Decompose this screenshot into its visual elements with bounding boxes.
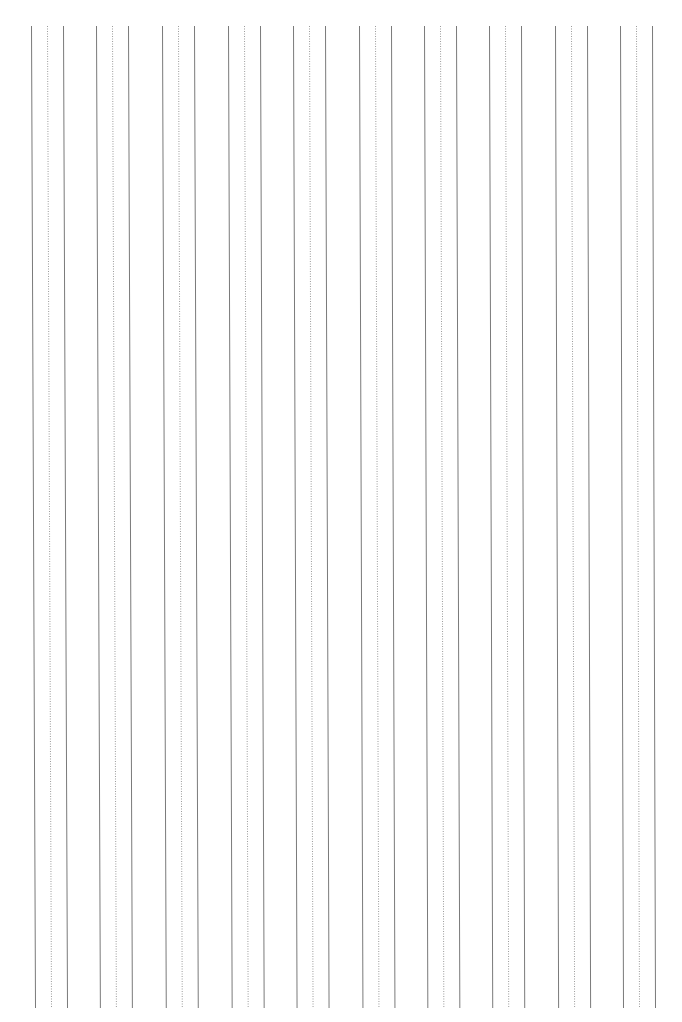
line-groups <box>0 0 682 1022</box>
dotted-midline <box>441 26 444 1008</box>
solid-line-right <box>326 26 330 1008</box>
solid-line-left <box>621 26 624 1008</box>
line-group <box>490 26 525 1008</box>
solid-line-right <box>261 26 265 1008</box>
solid-line-right <box>457 26 460 1008</box>
dotted-midline <box>48 26 52 1008</box>
solid-line-left <box>556 26 559 1008</box>
solid-line-left <box>163 26 167 1008</box>
solid-line-left <box>294 26 298 1008</box>
line-group <box>360 26 395 1008</box>
line-group <box>97 26 133 1008</box>
solid-line-left <box>97 26 101 1008</box>
dotted-midline <box>637 26 640 1008</box>
line-group <box>556 26 591 1008</box>
solid-line-left <box>425 26 428 1008</box>
dotted-midline <box>179 26 183 1008</box>
solid-line-left <box>229 26 233 1008</box>
solid-line-left <box>360 26 363 1008</box>
dotted-midline <box>506 26 509 1008</box>
lined-sheet <box>0 0 682 1022</box>
dotted-midline <box>572 26 575 1008</box>
dotted-midline <box>113 26 117 1008</box>
solid-line-right <box>129 26 133 1008</box>
line-group <box>32 26 68 1008</box>
solid-line-right <box>588 26 591 1008</box>
solid-line-right <box>195 26 199 1008</box>
line-group <box>163 26 199 1008</box>
solid-line-right <box>653 26 656 1008</box>
dotted-midline <box>245 26 249 1008</box>
solid-line-right <box>392 26 395 1008</box>
solid-line-left <box>490 26 493 1008</box>
solid-line-right <box>522 26 525 1008</box>
line-group <box>621 26 656 1008</box>
solid-line-right <box>64 26 68 1008</box>
line-group <box>294 26 330 1008</box>
line-group <box>425 26 460 1008</box>
dotted-midline <box>310 26 314 1008</box>
dotted-midline <box>376 26 379 1008</box>
line-group <box>229 26 265 1008</box>
solid-line-left <box>32 26 36 1008</box>
